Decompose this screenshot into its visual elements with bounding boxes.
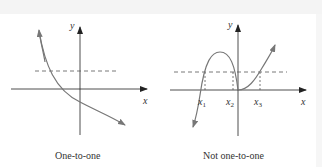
caption-one-to-one: One-to-one	[55, 150, 101, 161]
tick-label-x2: x2	[225, 96, 234, 109]
caption-not-one-to-one: Not one-to-one	[203, 150, 264, 161]
y-axis-label: y	[227, 19, 233, 30]
x-axis-label: x	[142, 95, 148, 106]
graph-not-one-to-one: y x x1 x2 x3	[170, 19, 306, 136]
curve-decreasing	[39, 31, 125, 125]
curve-cubic	[200, 45, 275, 95]
y-axis-label: y	[69, 20, 75, 31]
tick-label-x3: x3	[253, 96, 262, 109]
curve-left-arrow-end	[39, 30, 45, 62]
x-axis-label: x	[300, 96, 306, 107]
graph-one-to-one: y x	[11, 20, 148, 135]
graphs-canvas: y x y x x1 x2 x3	[0, 0, 322, 167]
